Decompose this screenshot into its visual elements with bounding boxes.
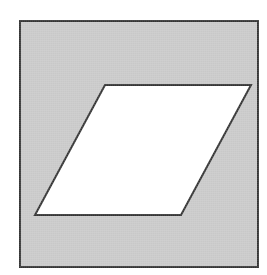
shape-diagram: Parallelogram inscribed in a square A li…	[0, 0, 267, 275]
figure-canvas: Parallelogram inscribed in a square A li…	[0, 0, 267, 275]
